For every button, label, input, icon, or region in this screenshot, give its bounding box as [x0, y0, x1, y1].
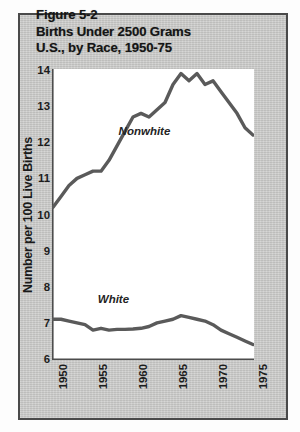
x-tick-label: 1955	[97, 364, 109, 410]
y-tick-label: 12	[30, 137, 50, 147]
title-line-1: Figure 5-2	[36, 7, 256, 24]
chart-svg: NonwhiteWhite	[52, 69, 254, 360]
x-tick-label: 1960	[137, 364, 149, 410]
series-annotation: White	[98, 293, 130, 305]
x-tick-label: 1950	[57, 364, 69, 410]
y-tick-label: 13	[30, 101, 50, 111]
y-tick-label: 14	[30, 65, 50, 75]
y-tick-label: 6	[30, 354, 50, 364]
y-axis-tick-labels: 67891011121314	[26, 69, 50, 360]
x-tick-label: 1975	[257, 364, 269, 410]
title-line-3: U.S., by Race, 1950-75	[36, 40, 256, 57]
figure-container: Figure 5-2 Births Under 2500 Grams U.S.,…	[0, 0, 300, 432]
x-tick-label: 1970	[217, 364, 229, 410]
y-tick-label: 10	[30, 210, 50, 220]
y-tick-label: 8	[30, 282, 50, 292]
y-tick-label: 11	[30, 173, 50, 183]
series-annotation: Nonwhite	[119, 125, 171, 137]
x-axis-tick-labels: 195019551960196519701975	[52, 364, 282, 424]
y-tick-label: 9	[30, 246, 50, 256]
plot-area: NonwhiteWhite	[52, 69, 254, 360]
title-line-2: Births Under 2500 Grams	[36, 24, 256, 41]
figure-title: Figure 5-2 Births Under 2500 Grams U.S.,…	[36, 7, 256, 57]
x-tick-label: 1965	[177, 364, 189, 410]
y-tick-label: 7	[30, 318, 50, 328]
